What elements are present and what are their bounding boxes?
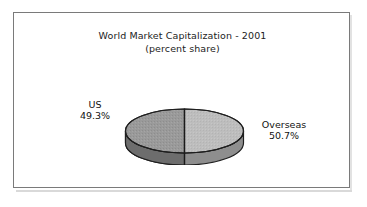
chart-frame: World Market Capitalization - 2001 (perc… xyxy=(13,12,350,188)
chart-title-main: World Market Capitalization - 2001 xyxy=(14,29,351,42)
pie-label-overseas: Overseas 50.7% xyxy=(246,119,322,141)
chart-subtitle: (percent share) xyxy=(14,42,351,55)
pie-label-us-name: US xyxy=(62,99,128,110)
pie-label-overseas-value: 50.7% xyxy=(246,130,322,141)
pie-label-us: US 49.3% xyxy=(62,99,128,121)
pie-chart-svg xyxy=(124,97,245,165)
pie-label-us-value: 49.3% xyxy=(62,110,128,121)
pie-label-overseas-name: Overseas xyxy=(246,119,322,130)
pie-chart-3d xyxy=(124,97,245,165)
chart-title: World Market Capitalization - 2001 (perc… xyxy=(14,29,351,55)
frame-drop-shadow-bottom xyxy=(16,190,352,192)
